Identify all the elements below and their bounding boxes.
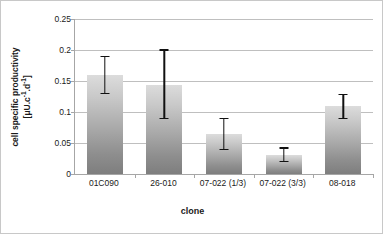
x-axis-tick-label: 07-022 (1/3) bbox=[200, 178, 246, 188]
plot-area bbox=[74, 19, 373, 174]
y-axis-tick-label: 0.1 bbox=[43, 107, 71, 117]
bar-group bbox=[313, 19, 373, 174]
x-axis-title: clone bbox=[1, 206, 383, 216]
error-bar-cap-top bbox=[279, 147, 288, 148]
chart-figure: cell specific productivity [μU.c-1.d-1] … bbox=[0, 0, 383, 234]
bar-group bbox=[75, 19, 135, 174]
y-axis-units-suffix: ] bbox=[22, 75, 32, 78]
error-bar-cap-top bbox=[160, 49, 169, 50]
error-bar-line bbox=[342, 95, 343, 119]
y-axis-units-exp1: -1 bbox=[20, 92, 27, 98]
x-axis-tick-label: 07-022 (3/3) bbox=[259, 178, 305, 188]
error-bar-line bbox=[164, 50, 165, 118]
y-axis-tick-labels: 00.050.10.150.20.25 bbox=[43, 1, 71, 234]
y-axis-tick-label: 0 bbox=[43, 169, 71, 179]
x-axis-tick-labels: 01C09026-01007-022 (1/3)07-022 (3/3)08-0… bbox=[74, 178, 372, 196]
error-bar-line bbox=[223, 118, 224, 149]
error-bar-line bbox=[283, 148, 284, 162]
bar-group bbox=[194, 19, 254, 174]
y-axis-title-line2: [μU.c-1.d-1] bbox=[20, 19, 32, 175]
bar-group bbox=[254, 19, 314, 174]
error-bar-line bbox=[104, 56, 105, 93]
error-bar-cap-bottom bbox=[219, 149, 228, 150]
y-axis-tick-label: 0.25 bbox=[43, 14, 71, 24]
error-bar-cap-bottom bbox=[339, 118, 348, 119]
y-axis-tick-label: 0.2 bbox=[43, 45, 71, 55]
error-bar-cap-top bbox=[219, 118, 228, 119]
x-axis-tick-label: 26-010 bbox=[150, 178, 176, 188]
error-bar-cap-bottom bbox=[100, 93, 109, 94]
y-axis-title: cell specific productivity [μU.c-1.d-1] bbox=[9, 19, 43, 175]
x-axis-tick-label: 08-018 bbox=[329, 178, 355, 188]
x-axis-tick-label: 01C090 bbox=[89, 178, 119, 188]
error-bar-cap-bottom bbox=[279, 161, 288, 162]
y-axis-units-mid: .d bbox=[22, 84, 32, 92]
y-axis-units-exp2: -1 bbox=[20, 78, 27, 84]
y-axis-tick-label: 0.15 bbox=[43, 76, 71, 86]
error-bar-cap-bottom bbox=[160, 118, 169, 119]
y-axis-tick-label: 0.05 bbox=[43, 138, 71, 148]
y-axis-title-line1: cell specific productivity bbox=[10, 19, 20, 175]
error-bar-cap-top bbox=[339, 94, 348, 95]
error-bar-cap-top bbox=[100, 56, 109, 57]
bar-group bbox=[135, 19, 195, 174]
y-axis-units-prefix: [μU.c bbox=[22, 97, 32, 118]
x-axis-tick-mark bbox=[373, 174, 374, 178]
